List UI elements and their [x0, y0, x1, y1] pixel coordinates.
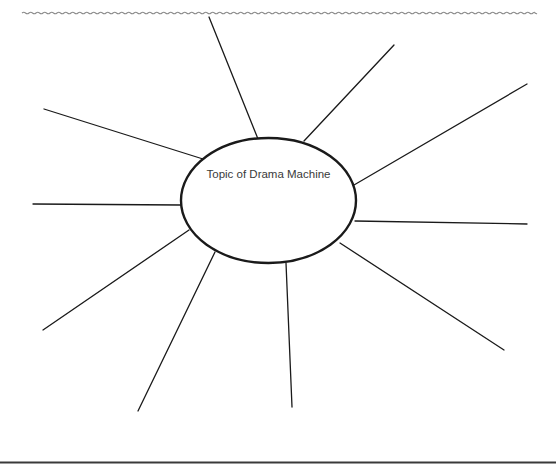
web-diagram	[0, 0, 556, 470]
spoke-write-area-2[interactable]	[304, 45, 394, 141]
spoke-write-area-10[interactable]	[44, 109, 203, 159]
center-topic-label: Topic of Drama Machine	[181, 168, 356, 180]
spoke-write-area-6[interactable]	[286, 263, 292, 407]
spoke-write-area-8[interactable]	[43, 230, 189, 330]
spoke-write-area-3[interactable]	[354, 84, 527, 185]
spoke-write-area-5[interactable]	[340, 243, 504, 350]
spoke-write-area-4[interactable]	[355, 221, 527, 224]
center-topic-ellipse[interactable]	[181, 138, 356, 263]
header-wavy-divider	[22, 12, 537, 13]
spoke-write-area-1[interactable]	[209, 17, 258, 139]
spoke-write-area-9[interactable]	[33, 204, 181, 205]
spoke-write-area-7[interactable]	[138, 252, 215, 411]
